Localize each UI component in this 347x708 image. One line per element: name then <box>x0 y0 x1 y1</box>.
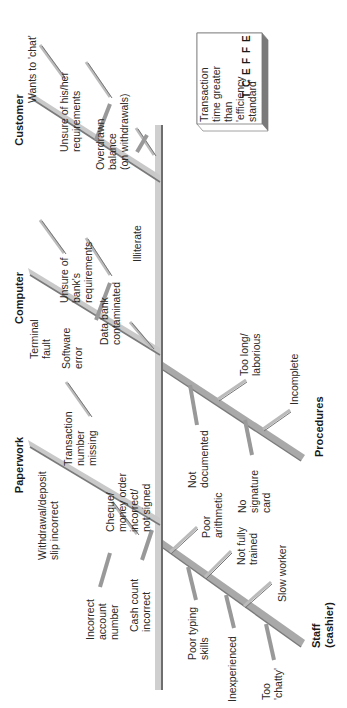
bone-procedures <box>163 362 305 461</box>
cause-software-error-2: error <box>72 346 84 369</box>
cause-cheque-4: not signed <box>140 483 152 532</box>
fishbone-diagram: Transaction time greater than 'efficienc… <box>0 0 347 708</box>
cause-data-bank-2: contaminated <box>110 282 122 345</box>
cause-inexperienced: Inexperienced <box>226 636 238 702</box>
category-staff-sub: (cashier) <box>323 602 335 648</box>
effect-line-1: Transaction <box>198 67 210 122</box>
effect-letter: E <box>241 68 252 75</box>
cause-unsure-his-her-2: requirements <box>70 91 82 152</box>
cause-cash-count-2: incorrect <box>140 592 152 632</box>
cause-terminal-fault-1: Terminal <box>28 319 40 359</box>
cause-too-long-1: Too long/ <box>238 333 250 376</box>
cause-not-documented-1: Not <box>186 472 198 488</box>
cause-overdrawn-2: balance <box>106 133 118 170</box>
cause-cash-count-1: Cash count <box>128 579 140 632</box>
cause-too-chatty-2: 'chatty' <box>272 668 284 700</box>
cause-txn-missing-3: missing <box>86 430 98 466</box>
cause-terminal-fault-2: fault <box>40 339 52 359</box>
cause-slip-incorrect-2: slip incorrect <box>48 501 60 560</box>
cause-unsure-bank-3: requirements <box>82 242 94 303</box>
cause-overdrawn-3: (on withdrawals) <box>118 94 130 170</box>
cause-too-long-2: laborious <box>250 333 262 376</box>
cause-txn-missing-1: Transaction <box>62 411 74 466</box>
category-staff: Staff <box>310 623 322 648</box>
cause-slow-worker: Slow worker <box>276 544 288 602</box>
cause-data-bank-1: Data bank <box>98 296 110 345</box>
cause-account-number-1: Incorrect <box>84 599 96 640</box>
effect-letter: C <box>241 79 252 87</box>
cause-too-chatty-1: Too <box>260 683 272 700</box>
cause-not-documented-2: documented <box>198 430 210 488</box>
cause-unsure-his-her-1: Unsure of his/her <box>58 72 70 152</box>
effect-letter: F <box>241 57 252 64</box>
spine <box>155 125 163 690</box>
cause-software-error-1: Software <box>60 327 72 369</box>
cause-unsure-bank-2: bank's <box>70 273 82 303</box>
cause-cheque-2: money order <box>116 473 128 532</box>
cause-cheque-3: incorrect/ <box>128 489 140 532</box>
labels: Customer Computer Paperwork Procedures S… <box>13 35 335 702</box>
category-paperwork: Paperwork <box>13 436 25 493</box>
effect-line-3: than <box>222 101 234 122</box>
effect-line-2: time greater <box>210 65 222 122</box>
cause-signature-card-1: No <box>236 499 248 513</box>
category-procedures: Procedures <box>313 396 325 457</box>
cause-txn-missing-2: number <box>74 430 86 466</box>
effect-letter: F <box>241 46 252 53</box>
cause-signature-card-2: signature <box>248 470 260 513</box>
cause-poor-typing-2: skills <box>198 637 210 660</box>
cause-cheque-1: Cheque/ <box>104 492 116 532</box>
cause-illiterate: Illiterate <box>131 225 143 262</box>
cause-signature-card-3: card <box>260 492 272 513</box>
cause-account-number-3: number <box>108 604 120 640</box>
cause-overdrawn-1: Overdrawn <box>94 118 106 170</box>
effect-letter: E <box>241 35 252 42</box>
cause-incomplete: Incomplete <box>288 353 300 405</box>
effect-letter: T <box>241 91 252 98</box>
cause-poor-arithmetic-1: Poor <box>200 515 212 538</box>
cause-unsure-bank-1: Unsure of <box>58 257 70 303</box>
category-customer: Customer <box>13 94 25 146</box>
cause-poor-arithmetic-2: arithmetic <box>212 492 224 538</box>
cause-not-fully-trained-1: Not fully <box>235 526 247 565</box>
category-computer: Computer <box>13 271 25 324</box>
cause-wants-to-chat: Wants to 'chat' <box>26 35 38 103</box>
cause-slip-incorrect-1: Withdrawal/deposit <box>36 471 48 560</box>
cause-not-fully-trained-2: trained <box>247 533 259 565</box>
cause-poor-typing-1: Poor typing <box>186 607 198 660</box>
cause-account-number-2: account <box>96 603 108 640</box>
